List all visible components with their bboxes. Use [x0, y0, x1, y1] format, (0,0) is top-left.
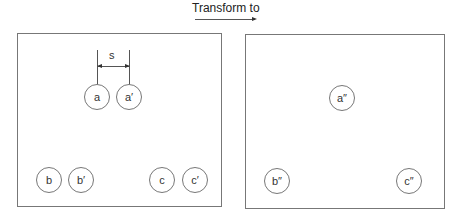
- circle-a-double-prime: a″: [329, 85, 355, 111]
- circle-b-double-prime: b″: [264, 168, 290, 194]
- transform-arrow-icon: [195, 19, 255, 20]
- circle-a: a: [84, 84, 110, 110]
- transform-title: Transform to: [192, 1, 260, 15]
- circle-a-prime: a′: [116, 84, 142, 110]
- circle-c: c: [149, 167, 175, 193]
- circle-b-prime: b′: [68, 167, 94, 193]
- circle-b: b: [36, 167, 62, 193]
- circle-c-prime: c′: [182, 167, 208, 193]
- dimension-arrow-s: [97, 66, 130, 67]
- dimension-label-s: s: [109, 49, 115, 61]
- circle-c-double-prime: c″: [396, 168, 422, 194]
